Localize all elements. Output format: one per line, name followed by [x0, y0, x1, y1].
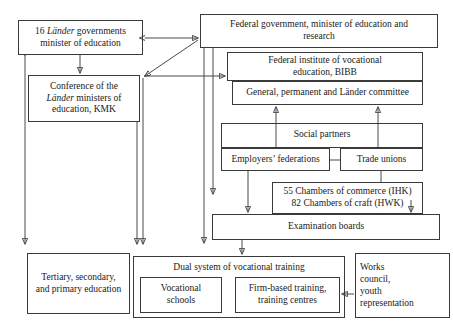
- node-tertiary-secondary-primary: Tertiary, secondary, and primary educati…: [27, 253, 130, 314]
- node-employers-federations: Employers’ federations: [221, 148, 330, 171]
- node-chambers: 55 Chambers of commerce (IHK) 82 Chamber…: [272, 182, 423, 214]
- node-label-federal-government: Federal government, minister of educatio…: [230, 19, 408, 43]
- connector-federal-kmk-diagonal: [145, 40, 198, 76]
- node-label-tertiary-secondary-primary: Tertiary, secondary, and primary educati…: [36, 272, 121, 296]
- node-label-dual-system: Dual system of vocational training: [173, 262, 304, 274]
- node-label-bibb: Federal institute of vocational educatio…: [268, 55, 382, 79]
- node-federal-government: Federal government, minister of educatio…: [200, 14, 438, 48]
- node-label-employers-federations: Employers’ federations: [231, 154, 319, 166]
- node-trade-unions: Trade unions: [340, 148, 423, 171]
- node-kmk: Conference of the Länder ministers of ed…: [28, 75, 140, 122]
- node-label-works-council: Works council, youth representation: [360, 262, 414, 310]
- node-label-trade-unions: Trade unions: [357, 154, 407, 166]
- node-examination-boards: Examination boards: [212, 214, 440, 240]
- vocational-training-diagram: 16 Länder governments minister of educat…: [0, 0, 453, 334]
- node-laender-governments: 16 Länder governments minister of educat…: [18, 20, 143, 55]
- node-firm-based-training: Firm-based training, training centres: [235, 277, 340, 313]
- node-label-kmk: Conference of the Länder ministers of ed…: [47, 81, 122, 117]
- node-label-vocational-schools: Vocational schools: [161, 283, 201, 307]
- node-vocational-schools: Vocational schools: [140, 277, 222, 313]
- node-bibb: Federal institute of vocational educatio…: [227, 52, 423, 81]
- node-label-firm-based-training: Firm-based training, training centres: [249, 283, 327, 307]
- node-committee: General, permanent and Länder committee: [232, 81, 423, 105]
- node-works-council: Works council, youth representation: [355, 253, 450, 318]
- node-label-examination-boards: Examination boards: [288, 221, 364, 233]
- node-label-chambers: 55 Chambers of commerce (IHK) 82 Chamber…: [283, 186, 411, 210]
- node-label-laender-governments: 16 Länder governments minister of educat…: [35, 26, 126, 50]
- node-social-partners: Social partners: [221, 123, 423, 148]
- node-label-social-partners: Social partners: [294, 129, 351, 141]
- node-label-committee: General, permanent and Länder committee: [246, 87, 409, 99]
